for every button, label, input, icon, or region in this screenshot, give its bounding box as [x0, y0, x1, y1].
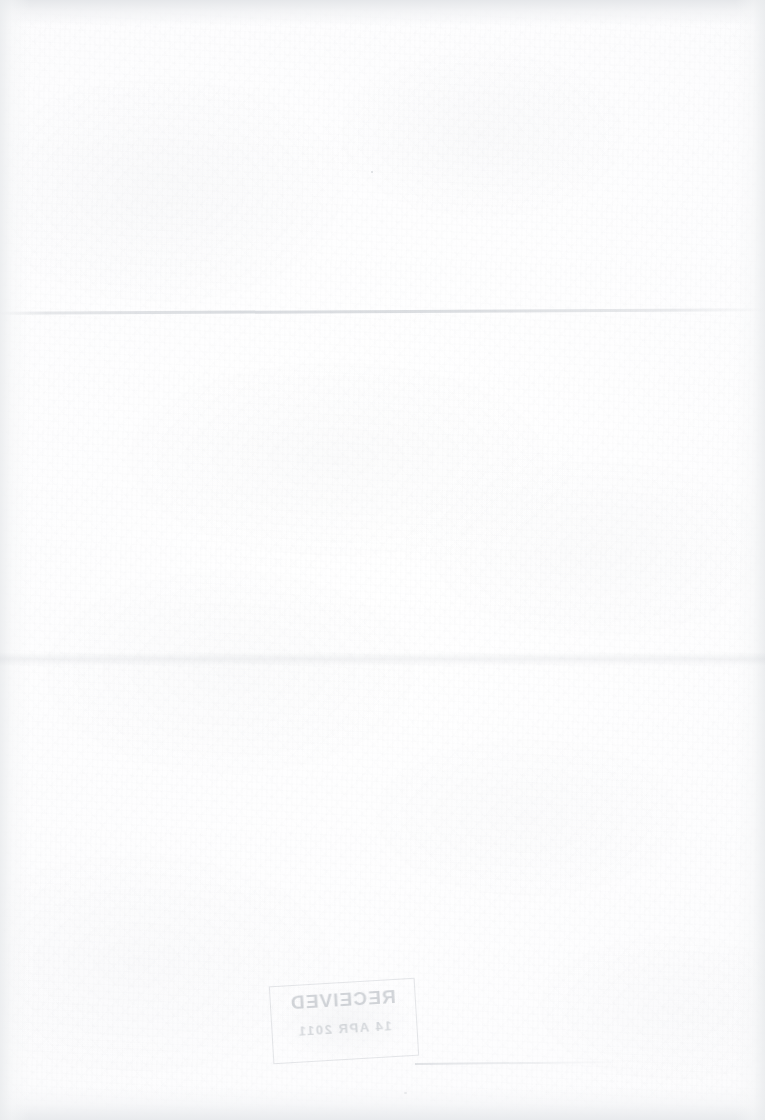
scanned-document-page: RECEIVED 14 APR 2011 — [0, 0, 765, 1120]
stamp-date: 14 APR 2011 — [272, 1017, 417, 1041]
dust-speck — [371, 171, 373, 173]
received-date-stamp: RECEIVED 14 APR 2011 — [269, 978, 419, 1065]
fold-crease-lower — [0, 652, 765, 666]
scan-edge-shadow-top — [0, 0, 765, 26]
dust-speck — [404, 1092, 407, 1094]
stamp-footer-text — [281, 1050, 411, 1058]
scan-edge-shadow-bottom — [0, 1086, 765, 1120]
paper-mottle-texture — [0, 0, 765, 1120]
scan-edge-shadow-left — [0, 0, 30, 1120]
stamp-title: RECEIVED — [270, 986, 415, 1014]
scan-edge-shadow-right — [735, 0, 765, 1120]
